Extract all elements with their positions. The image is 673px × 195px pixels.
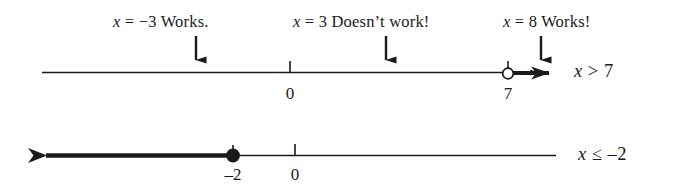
line-1-tick-label-7: 7 [504, 85, 513, 102]
line-2-inequality-relation: ≤ –2 [587, 144, 627, 164]
line-1-inequality-var: x [574, 61, 583, 81]
test-point-caption-8-var: x [503, 12, 511, 31]
test-point-caption-3-text: = 3 Doesn’t work! [301, 12, 430, 31]
line-1-inequality-relation: > 7 [583, 61, 614, 81]
line-2-tick-label-neg2: –2 [225, 166, 242, 183]
line-2-closed-endpoint-neg2 [227, 149, 239, 161]
test-point-caption-8: x = 8 Works! [503, 14, 591, 31]
line-1-tick-label-0: 0 [286, 85, 295, 102]
test-point-caption-3: x = 3 Doesn’t work! [293, 14, 430, 31]
line-1-open-endpoint-7 [503, 68, 514, 79]
test-point-caption-neg3-text: = −3 Works. [121, 12, 209, 31]
number-line-figure: x = −3 Works. x = 3 Doesn’t work! x = 8 … [0, 0, 673, 195]
line-2-inequality-var: x [578, 144, 587, 164]
test-point-caption-neg3: x = −3 Works. [113, 14, 209, 31]
line-2-inequality-label: x ≤ –2 [578, 145, 627, 164]
line-2-tick-label-0: 0 [291, 166, 300, 183]
line-1-group [42, 36, 549, 79]
line-1-inequality-label: x > 7 [574, 62, 614, 81]
test-point-caption-neg3-var: x [113, 12, 121, 31]
line-2-group [46, 144, 556, 162]
test-point-caption-3-var: x [293, 12, 301, 31]
test-point-caption-8-text: = 8 Works! [511, 12, 591, 31]
